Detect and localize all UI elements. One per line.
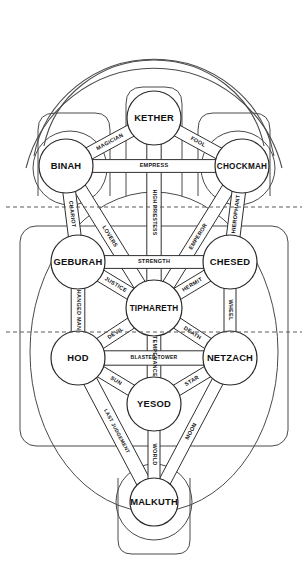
path-label-world: WORLD <box>152 443 158 465</box>
sphere-kether[interactable]: KETHER <box>127 91 181 145</box>
sphere-yesod[interactable]: YESOD <box>127 377 181 431</box>
sphere-chockmah[interactable]: CHOCKMAH <box>215 139 269 193</box>
path-label-wheel: WHEEL <box>228 299 234 321</box>
path-label-high-priestess: HIGH PRIESTESS <box>152 190 158 236</box>
path-label-hanged-man: HANGED MAN <box>76 290 82 330</box>
tree-of-life-diagram: KETHERBINAHCHOCKMAHGEBURAHCHESEDTIPHARET… <box>0 0 308 579</box>
sphere-label-netzach: NETZACH <box>207 352 253 363</box>
sphere-hod[interactable]: HOD <box>51 331 105 385</box>
path-label-strength: STRENGTH <box>138 258 170 264</box>
sphere-netzach[interactable]: NETZACH <box>203 331 257 385</box>
sphere-label-yesod: YESOD <box>137 398 171 409</box>
sphere-label-binah: BINAH <box>51 160 82 171</box>
sphere-label-geburah: GEBURAH <box>54 256 103 267</box>
sphere-tiphareth[interactable]: TIPHARETH <box>126 280 182 336</box>
sphere-label-chockmah: CHOCKMAH <box>217 162 267 171</box>
sphere-chesed[interactable]: CHESED <box>203 235 257 289</box>
sphere-label-chesed: CHESED <box>210 256 250 267</box>
sphere-malkuth[interactable]: MALKUTH <box>130 478 178 526</box>
path-label-blasted-tower: BLASTED TOWER <box>131 354 178 360</box>
sphere-binah[interactable]: BINAH <box>39 139 93 193</box>
sphere-label-tiphareth: TIPHARETH <box>130 304 179 313</box>
sphere-label-kether: KETHER <box>134 112 174 123</box>
sphere-label-hod: HOD <box>67 352 88 363</box>
sphere-label-malkuth: MALKUTH <box>130 496 178 507</box>
path-label-empress: EMPRESS <box>140 162 169 168</box>
sphere-geburah[interactable]: GEBURAH <box>51 235 105 289</box>
